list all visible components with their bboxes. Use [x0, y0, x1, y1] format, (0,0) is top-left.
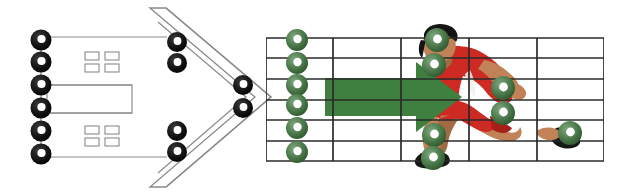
- marker-node-shoulder[interactable]: [422, 53, 446, 77]
- cluster-cell: [105, 126, 119, 134]
- cluster-cell: [105, 64, 119, 72]
- funnel-chevron: [150, 8, 271, 187]
- marker-node-head[interactable]: [425, 28, 449, 52]
- connector-node-fn-4[interactable]: [167, 142, 187, 162]
- cluster-cell: [85, 138, 99, 146]
- funnel-outer-outline: [150, 8, 271, 187]
- diagram-svg: [0, 0, 634, 195]
- marker-node-col-1[interactable]: [286, 29, 308, 51]
- connector-node-fn-5[interactable]: [233, 75, 253, 95]
- marker-node-col-4[interactable]: [286, 94, 308, 116]
- cluster-cell: [105, 52, 119, 60]
- cluster-cell: [85, 52, 99, 60]
- marker-node-col-2[interactable]: [286, 52, 308, 74]
- square-cluster-bottom: [85, 126, 119, 146]
- connector-node-in-2[interactable]: [31, 52, 52, 73]
- cluster-cell: [85, 64, 99, 72]
- input-panel: [31, 30, 168, 165]
- marker-node-rear-foot[interactable]: [421, 146, 445, 170]
- cluster-cell: [85, 126, 99, 134]
- marker-node-col-5[interactable]: [286, 117, 308, 139]
- connector-node-in-3[interactable]: [31, 75, 52, 96]
- connector-node-fn-3[interactable]: [167, 121, 187, 141]
- square-cluster-top: [85, 52, 119, 72]
- marker-node-front-hand[interactable]: [491, 76, 515, 100]
- connector-node-fn-6[interactable]: [233, 98, 253, 118]
- marker-node-hip[interactable]: [491, 101, 515, 125]
- connector-node-in-4[interactable]: [31, 98, 52, 119]
- cluster-cell: [105, 138, 119, 146]
- marker-node-col-3[interactable]: [286, 74, 308, 96]
- connector-node-in-5[interactable]: [31, 121, 52, 142]
- marker-column: [286, 29, 308, 163]
- connector-node-fn-2[interactable]: [167, 53, 187, 73]
- connector-node-fn-1[interactable]: [167, 32, 187, 52]
- marker-node-col-6[interactable]: [286, 141, 308, 163]
- diagram-canvas: [0, 0, 634, 195]
- connector-node-in-6[interactable]: [31, 144, 52, 165]
- marker-node-front-foot[interactable]: [558, 121, 582, 145]
- marker-node-knee[interactable]: [422, 123, 446, 147]
- center-box: [47, 85, 132, 113]
- connector-node-in-1[interactable]: [31, 30, 52, 51]
